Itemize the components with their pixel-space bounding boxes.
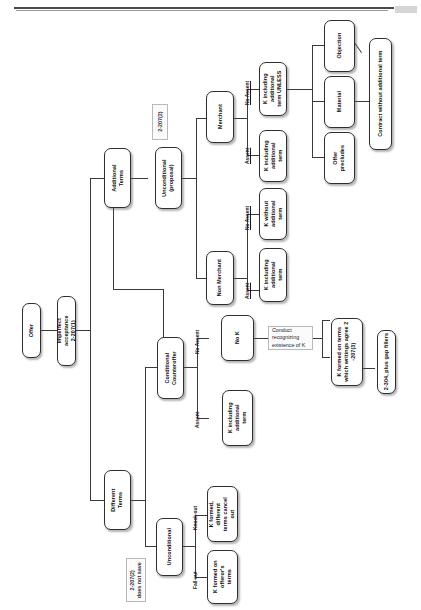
- header-rule-thin: [16, 10, 388, 11]
- note-2-207-2-does-not-save-label: 2-207(2) does not save: [129, 562, 144, 598]
- connector-to-objection: [312, 45, 324, 46]
- connector-unconditional-out: [182, 178, 196, 179]
- node-no-k[interactable]: No K: [221, 315, 254, 361]
- node-material[interactable]: Material: [324, 76, 355, 128]
- node-no-k-label: No K: [234, 332, 241, 345]
- note-2-207-2-does-not-save: 2-207(2) does not save: [126, 558, 146, 602]
- note-conduct-recognizing-existence-of-k-label: Conduct recognizing existence of K: [272, 327, 305, 348]
- node-additional-terms-label: Additional Terms: [110, 164, 124, 191]
- header-rule: [14, 7, 394, 9]
- connector-nonmerchant-out: [234, 278, 247, 279]
- edge-label-merchant-assent: Assent: [245, 148, 250, 164]
- node-k-including-additional-term-unless[interactable]: K including additional term UNLESS: [259, 62, 287, 116]
- connector-conduct-out: [312, 338, 322, 339]
- connector-uncond-out: [183, 546, 195, 547]
- note-2-207-2: 2-207(2): [152, 104, 168, 140]
- connector-conduct-down: [322, 357, 330, 358]
- connector-cc-left-spine: [145, 367, 146, 500]
- node-offer-label: Offer: [28, 324, 35, 337]
- connector-conduct-spine: [322, 320, 323, 357]
- node-k-including-additional-term-merchant-assent[interactable]: K including additional term: [259, 130, 287, 182]
- connector-additional-unconditional: [131, 178, 148, 179]
- node-k-without-additional-term-label: K without additional term: [262, 201, 283, 227]
- node-offer[interactable]: Offer: [22, 303, 41, 358]
- edge-label-nonmerchant-assent: Assent: [245, 283, 250, 299]
- node-different-terms[interactable]: Different Terms: [104, 470, 131, 530]
- node-contract-without-additional-term[interactable]: Contract without additional term: [369, 38, 392, 150]
- node-k-including-additional-term-unless-label: K including additional term UNLESS: [262, 71, 283, 107]
- node-non-merchant[interactable]: Non Merchant: [206, 251, 234, 305]
- node-contract-without-additional-term-label: Contract without additional term: [377, 51, 384, 137]
- node-unconditional-different-terms[interactable]: Unconditional: [156, 518, 183, 576]
- edge-label-fall-out: Fall-out: [193, 571, 198, 589]
- node-offer-precludes[interactable]: Offer precludes: [324, 132, 355, 184]
- node-conditional-counteroffer[interactable]: Conditional Counteroffer: [157, 337, 184, 399]
- connector-conduct-up: [322, 320, 330, 321]
- connector-merchant-out: [234, 118, 247, 119]
- node-k-including-additional-term-cc-assent-label: K including additional term: [227, 403, 248, 433]
- connector-to-material: [312, 101, 324, 102]
- connector-additional-across: [113, 289, 163, 290]
- node-k-including-additional-term-cc-assent[interactable]: K including additional term: [222, 390, 253, 446]
- node-objection[interactable]: Objection: [324, 20, 355, 72]
- connector-imperfect-spine: [90, 178, 91, 500]
- connector-different-out: [131, 500, 145, 501]
- node-k-without-additional-term[interactable]: K without additional term: [259, 188, 287, 240]
- node-unconditional-different-terms-label: Unconditional: [166, 528, 173, 565]
- node-imperfect-acceptance[interactable]: Imperfect acceptance 2-207(1): [57, 296, 76, 366]
- note-conduct-recognizing-existence-of-k: Conduct recognizing existence of K: [268, 326, 313, 350]
- connector-additional-down: [113, 199, 114, 289]
- connector-to-offerprecludes: [312, 157, 324, 158]
- node-k-formed-writings-agree-label: K formed on terms which writings agree 2…: [336, 322, 357, 382]
- edge-label-nonmerchant-no-assent: No Assent: [245, 206, 250, 230]
- corner-marker: [395, 6, 417, 13]
- node-unconditional-proposal-label: Unconditional (proposal): [161, 159, 175, 196]
- node-gap-fillers[interactable]: 2-304, plus gap fillers: [377, 330, 396, 394]
- node-conditional-counteroffer-label: Conditional Counteroffer: [163, 351, 177, 385]
- node-material-label: Material: [336, 91, 343, 112]
- node-objection-label: Objection: [336, 33, 343, 59]
- note-2-207-2-label: 2-207(2): [156, 112, 163, 132]
- node-offer-precludes-label: Offer precludes: [332, 145, 346, 171]
- edge-label-knock-out: Knock-out: [193, 506, 198, 530]
- connector-material-to-contract: [355, 101, 369, 102]
- node-merchant-label: Merchant: [216, 105, 223, 130]
- connector-merchant-spine: [196, 118, 197, 278]
- node-k-including-additional-term-nonmerchant-assent-label: K including additional term: [262, 260, 283, 290]
- flowchart-page: Offer Imperfect acceptance 2-207(1) Addi…: [0, 0, 421, 610]
- edge-label-cc-assent: Assent: [195, 412, 200, 428]
- edge-label-cc-no-assent: No Assent: [195, 330, 200, 354]
- edge-label-merchant-no-assent: No Assent: [245, 81, 250, 105]
- node-k-including-additional-term-merchant-assent-label: K including additional term: [262, 141, 283, 171]
- node-k-including-additional-term-nonmerchant-assent[interactable]: K including additional term: [259, 248, 287, 302]
- node-k-formed-different-terms-cancel-out[interactable]: K formed, different terms cancel out: [207, 486, 238, 542]
- node-k-formed-offerors-terms-label: K formed on offeror's terms: [212, 561, 233, 594]
- node-k-formed-writings-agree[interactable]: K formed on terms which writings agree 2…: [331, 318, 363, 386]
- connector-imperfect-out: [75, 330, 90, 331]
- connector-unless-out: [287, 89, 312, 90]
- node-unconditional-proposal[interactable]: Unconditional (proposal): [155, 147, 182, 209]
- node-k-formed-offerors-terms[interactable]: K formed on offeror's terms: [207, 550, 238, 604]
- node-merchant[interactable]: Merchant: [206, 91, 234, 143]
- connector-cc-out: [184, 367, 197, 368]
- node-gap-fillers-label: 2-304, plus gap fillers: [383, 333, 390, 390]
- node-different-terms-label: Different Terms: [110, 488, 124, 511]
- node-k-formed-different-terms-cancel-out-label: K formed, different terms cancel out: [208, 497, 237, 531]
- node-imperfect-acceptance-label: Imperfect acceptance 2-207(1): [56, 316, 77, 346]
- connector-different-down: [145, 500, 146, 546]
- node-non-merchant-label: Non Merchant: [216, 259, 223, 296]
- node-additional-terms[interactable]: Additional Terms: [104, 148, 131, 208]
- connector-kformed-gapfillers: [363, 368, 375, 369]
